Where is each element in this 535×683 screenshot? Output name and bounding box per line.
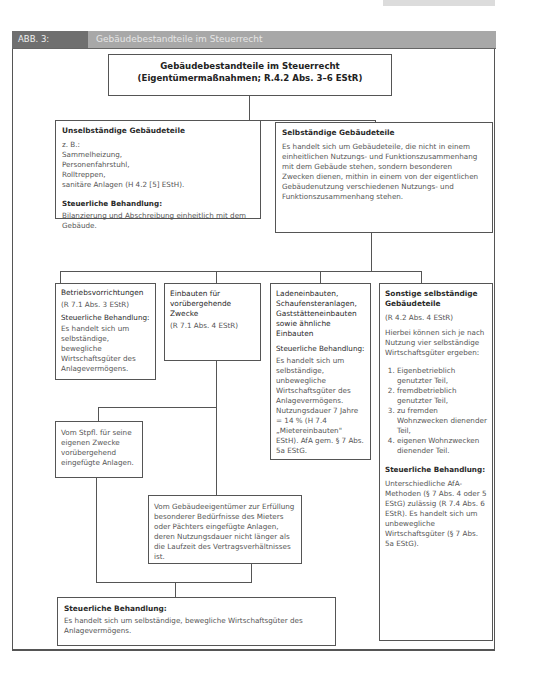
treatment-text: Unterschiedliche AfA-Methoden (§ 7 Abs. …	[385, 479, 487, 549]
connector	[421, 271, 422, 283]
connector	[216, 271, 217, 283]
figure-title: Gebäudebestandteile im Steuerrecht	[96, 31, 262, 48]
connector	[175, 582, 176, 597]
stpfl-box: Vom Stpfl. für seine eigenen Zwecke vorü…	[55, 421, 143, 478]
sonstige-ref: (R 4.2 Abs. 4 EStR)	[385, 313, 487, 323]
connector	[60, 271, 422, 272]
treatment-label: Steuerliche Behandlung:	[385, 465, 487, 475]
unselbstaendig-title: Unselbständige Gebäudeteile	[62, 126, 254, 136]
treatment-text: Bilanzierung und Abschreibung einheitlic…	[62, 211, 254, 231]
betriebsvorrichtungen-box: Betriebsvorrichtungen (R 7.1 Abs. 3 EStR…	[55, 283, 156, 380]
treatment-text: Es handelt sich um selbständige, bewegli…	[61, 324, 150, 374]
ladeneinbauten-title: Ladeneinbauten, Schaufensteranlagen, Gas…	[276, 289, 365, 339]
connector	[216, 360, 217, 495]
treatment-label: Steuerliche Behandlung:	[64, 604, 329, 614]
figure-number: ABB. 3:	[12, 31, 88, 48]
gebaeudeeigentuemer-box: Vom Gebäudeeigentümer zur Erfüllung beso…	[148, 495, 302, 564]
gebaeudeeigentuemer-text: Vom Gebäudeeigentümer zur Erfüllung beso…	[154, 502, 296, 562]
example-item: Personenfahrstuhl,	[62, 160, 254, 170]
selbstaendig-title: Selbständige Gebäudeteile	[282, 128, 486, 138]
figure-header: ABB. 3: Gebäudebestandteile im Steuerrec…	[12, 31, 496, 49]
sonstige-box: Sonstige selbständige Gebäudeteile (R 4.…	[379, 283, 493, 641]
connector	[96, 477, 97, 582]
top-box: Gebäudebestandteile im Steuerrecht (Eige…	[108, 54, 392, 96]
treatment-label: Steuerliche Behandlung:	[276, 344, 365, 354]
treatment-label: Steuerliche Behandlung:	[61, 313, 150, 323]
ladeneinbauten-box: Ladeneinbauten, Schaufensteranlagen, Gas…	[270, 283, 371, 460]
list-item: Eigenbetrieblich genutzter Teil,	[397, 366, 487, 386]
list-item: fremdbetrieblich genutzter Teil,	[397, 386, 487, 406]
sonstige-list: Eigenbetrieblich genutzter Teil, fremdbe…	[385, 366, 487, 456]
top-box-title: Gebäudebestandteile im Steuerrecht (Eige…	[138, 61, 363, 83]
sonstige-title: Sonstige selbständige Gebäudeteile	[385, 289, 487, 309]
connector	[96, 582, 252, 583]
list-item: eigenen Wohnzwecken dienender Teil.	[397, 436, 487, 456]
connector	[98, 407, 216, 408]
sonstige-intro: Hierbei können sich je nach Nutzung vier…	[385, 328, 487, 358]
stpfl-text: Vom Stpfl. für seine eigenen Zwecke vorü…	[61, 428, 137, 468]
betriebsvorrichtungen-ref: (R 7.1 Abs. 3 EStR)	[61, 300, 150, 310]
connector	[371, 232, 372, 271]
treatment-text: Es handelt sich um selbständige, bewegli…	[64, 616, 329, 636]
page-badge	[383, 0, 495, 6]
unselbstaendig-box: Unselbständige Gebäudeteile z. B.: Samme…	[55, 120, 261, 219]
treatment-text: Es handelt sich um selbständige, unbeweg…	[276, 356, 365, 456]
example-item: sanitäre Anlagen (H 4.2 [5] EStH).	[62, 180, 254, 190]
selbstaendig-text: Es handelt sich um Gebäudeteile, die nic…	[282, 142, 486, 202]
einbauten-title: Einbauten für vorübergehende Zwecke	[170, 289, 255, 319]
connector	[249, 95, 250, 121]
list-item: zu fremden Wohnzwecken dienender Teil,	[397, 406, 487, 436]
example-item: Sammelheizung,	[62, 150, 254, 160]
examples-label: z. B.:	[62, 140, 254, 150]
einbauten-ref: (R 7.1 Abs. 4 EStR)	[170, 321, 255, 331]
betriebsvorrichtungen-title: Betriebsvorrichtungen	[61, 288, 150, 298]
example-item: Rolltreppen,	[62, 170, 254, 180]
selbstaendig-box: Selbständige Gebäudeteile Es handelt sic…	[275, 122, 493, 233]
bottom-treatment-box: Steuerliche Behandlung: Es handelt sich …	[57, 597, 336, 646]
treatment-label: Steuerliche Behandlung:	[62, 199, 254, 209]
einbauten-box: Einbauten für vorübergehende Zwecke (R 7…	[164, 283, 261, 361]
connector	[251, 563, 252, 583]
connector	[60, 271, 61, 283]
connector	[320, 271, 321, 283]
connector	[98, 407, 99, 421]
